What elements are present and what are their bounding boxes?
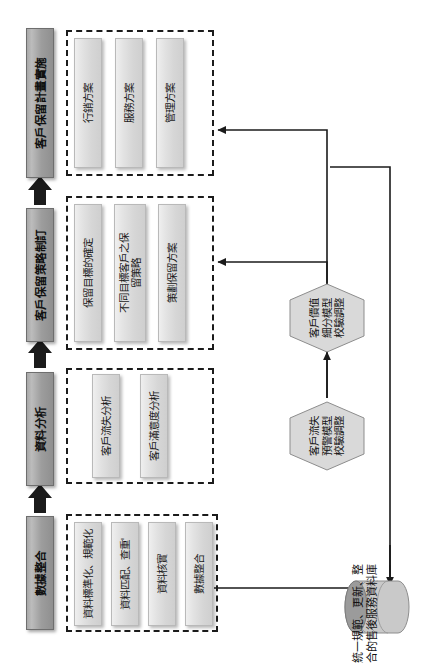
task-verify[interactable]: 資料核實 bbox=[148, 522, 176, 626]
model-churn-warning[interactable]: 客戶流失 預警模型 校驗調整 bbox=[288, 400, 366, 472]
task-integrate-label: 數據整合 bbox=[193, 554, 205, 594]
task-verify-label: 資料核實 bbox=[156, 554, 168, 594]
stage-analysis[interactable]: 資料分析 bbox=[26, 372, 54, 486]
task-management-plan-label: 管理方案 bbox=[164, 83, 176, 123]
task-match-dedup[interactable]: 資料匹配、查重' bbox=[111, 522, 139, 626]
task-marketing-plan-label: 行銷方案 bbox=[82, 83, 94, 123]
task-churn-analysis-label: 客戶流失分析 bbox=[100, 396, 112, 456]
stage-integration-label: 數據整合 bbox=[32, 550, 48, 596]
stage-implementation[interactable]: 客戶保留計畫實施 bbox=[26, 28, 54, 178]
wire-database-to-models bbox=[330, 167, 390, 588]
task-retention-goal[interactable]: 保留目標的確定 bbox=[74, 204, 102, 342]
task-marketing-plan[interactable]: 行銷方案 bbox=[74, 38, 102, 168]
database-caption: 統一規範、更新、整 合的售後服務資料庫 bbox=[352, 558, 444, 667]
stage-analysis-label: 資料分析 bbox=[32, 406, 48, 452]
task-match-dedup-label: 資料匹配、查重' bbox=[119, 538, 131, 611]
task-standardize[interactable]: 資料標準化、規範化 bbox=[74, 522, 102, 626]
task-plan-retention[interactable]: 策劃保留方案 bbox=[158, 204, 186, 342]
task-plan-retention-label: 策劃保留方案 bbox=[166, 243, 178, 303]
task-standardize-label: 資料標準化、規範化 bbox=[82, 529, 94, 619]
task-churn-analysis[interactable]: 客戶流失分析 bbox=[92, 374, 120, 478]
task-management-plan[interactable]: 管理方案 bbox=[156, 38, 184, 168]
task-integrate[interactable]: 數據整合 bbox=[185, 522, 213, 626]
stage-strategy-label: 客戶保留策略制訂 bbox=[32, 229, 48, 321]
task-satisfaction-analysis-label: 客戶滿意度分析 bbox=[148, 391, 160, 461]
task-service-plan-label: 服務方案 bbox=[123, 83, 135, 123]
task-segment-strategy-label: 不同目標客戶之保 留策略 bbox=[118, 233, 142, 313]
stage-integration[interactable]: 數據整合 bbox=[26, 516, 54, 630]
model-value-segmentation[interactable]: 客戶價值 細分模型 校驗調整 bbox=[288, 282, 366, 354]
task-service-plan[interactable]: 服務方案 bbox=[115, 38, 143, 168]
stage-implementation-label: 客戶保留計畫實施 bbox=[32, 57, 48, 149]
model-churn-warning-label: 客戶流失 預警模型 校驗調整 bbox=[308, 416, 346, 456]
task-segment-strategy[interactable]: 不同目標客戶之保 留策略 bbox=[114, 204, 146, 342]
stage-strategy[interactable]: 客戶保留策略制訂 bbox=[26, 208, 54, 342]
task-satisfaction-analysis[interactable]: 客戶滿意度分析 bbox=[140, 374, 168, 478]
model-value-segmentation-label: 客戶價值 細分模型 校驗調整 bbox=[308, 298, 346, 338]
task-retention-goal-label: 保留目標的確定 bbox=[82, 238, 94, 308]
